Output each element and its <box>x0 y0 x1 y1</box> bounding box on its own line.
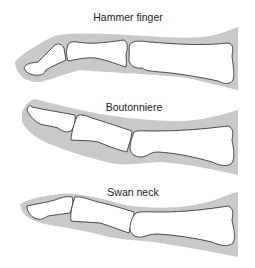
panel-swan-neck: Swan neck <box>20 186 238 257</box>
finger-deformities-diagram: Hammer finger Boutonniere Swan neck <box>0 0 255 268</box>
panel-label-swan-neck: Swan neck <box>107 186 159 198</box>
panel-label-hammer: Hammer finger <box>93 11 163 23</box>
panel-label-boutonniere: Boutonniere <box>106 101 163 113</box>
panel-boutonniere: Boutonniere <box>22 99 238 175</box>
panel-hammer-finger: Hammer finger <box>15 11 238 90</box>
